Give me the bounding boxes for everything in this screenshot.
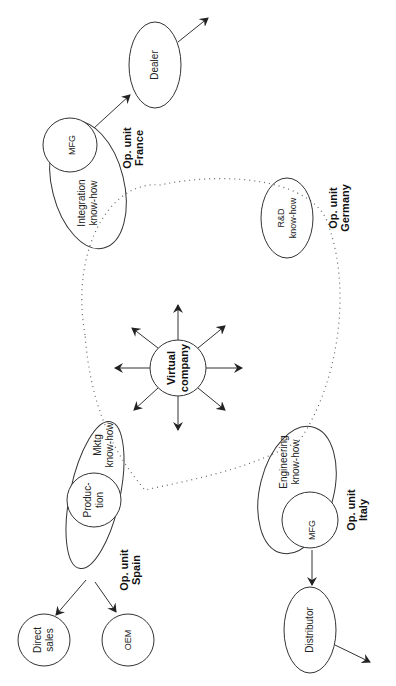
unit-italy: Engineering know-how MFG Op. unit Italy … bbox=[245, 418, 370, 673]
svg-text:Mktg: Mktg bbox=[92, 434, 103, 456]
svg-text:Dealer: Dealer bbox=[149, 50, 160, 80]
svg-text:Engineering: Engineering bbox=[278, 435, 289, 488]
svg-text:MFG: MFG bbox=[67, 135, 77, 155]
svg-text:know-how: know-how bbox=[104, 422, 115, 468]
svg-text:tion: tion bbox=[94, 492, 105, 508]
svg-text:MFG: MFG bbox=[307, 520, 317, 540]
svg-text:know-how: know-how bbox=[288, 197, 298, 238]
unit-germany: R&D know-how Op. unit Germany bbox=[261, 178, 351, 258]
svg-text:Op. unit: Op. unit bbox=[121, 127, 133, 169]
svg-text:Italy: Italy bbox=[357, 498, 369, 521]
svg-text:Direct: Direct bbox=[32, 627, 43, 653]
svg-text:Spain: Spain bbox=[130, 555, 142, 585]
svg-text:R&D: R&D bbox=[276, 208, 286, 228]
svg-text:Produc-: Produc- bbox=[82, 482, 93, 517]
svg-text:Op. unit: Op. unit bbox=[327, 187, 339, 229]
center-label-2: company bbox=[178, 343, 190, 392]
svg-text:OEM: OEM bbox=[123, 630, 133, 651]
svg-text:know-how: know-how bbox=[290, 439, 301, 485]
svg-text:Integration: Integration bbox=[76, 179, 87, 226]
svg-text:sales: sales bbox=[44, 628, 55, 651]
svg-text:know-how: know-how bbox=[88, 180, 99, 226]
virtual-company-diagram: Virtual company Mktg know-how Produc- ti… bbox=[0, 0, 396, 686]
svg-text:Germany: Germany bbox=[339, 183, 351, 232]
center-label-1: Virtual bbox=[165, 351, 177, 385]
virtual-company-node: Virtual company bbox=[150, 340, 206, 396]
svg-text:Distributor: Distributor bbox=[304, 607, 315, 653]
svg-text:Op. unit: Op. unit bbox=[345, 489, 357, 531]
unit-spain: Mktg know-how Produc- tion Op. unit Spai… bbox=[18, 416, 154, 666]
virtual-boundary-dotted bbox=[82, 179, 340, 490]
svg-text:Op. unit: Op. unit bbox=[118, 549, 130, 591]
unit-france: MFG Integration know-how Op. unit France… bbox=[37, 18, 208, 257]
svg-text:France: France bbox=[133, 130, 145, 166]
